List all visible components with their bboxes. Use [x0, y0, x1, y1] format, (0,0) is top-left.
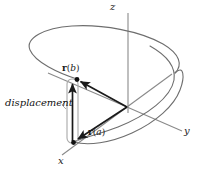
displacement-label: displacement [5, 98, 73, 108]
x-axis-line-back [127, 74, 172, 107]
diagram-canvas [0, 0, 198, 172]
point-r-b-dot [75, 77, 80, 82]
axis-label-z: z [110, 2, 115, 12]
vector-label-r-a: r(a) [88, 128, 105, 137]
axes-group [48, 13, 182, 155]
axis-label-y: y [184, 126, 190, 136]
point-r-a-dot [71, 140, 76, 145]
vector-diagram-figure: z y x r(b) r(a) displacement [0, 0, 198, 172]
displacement-bracket [62, 79, 78, 143]
vector-r-b-arrow [81, 82, 128, 108]
vector-label-r-b: r(b) [62, 64, 80, 73]
helix-upper-loop [29, 26, 179, 79]
vector-label-r-b-close: ) [76, 63, 80, 73]
helix-curve-group [29, 26, 183, 144]
vector-label-r-a-close: ) [102, 127, 106, 137]
axis-label-x: x [58, 156, 64, 166]
